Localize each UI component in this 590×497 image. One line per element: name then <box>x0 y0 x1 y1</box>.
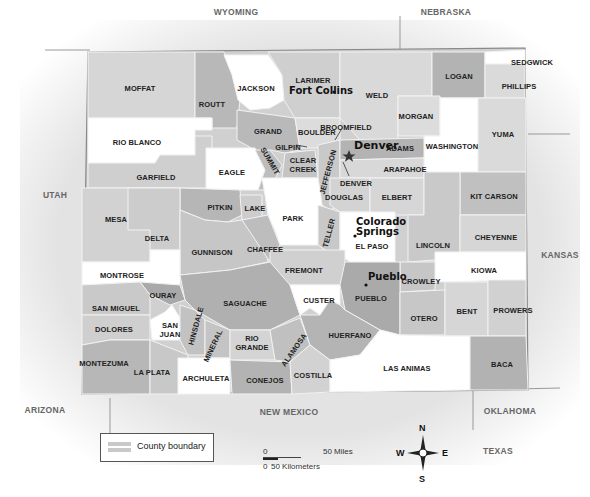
county-label-phillips: PHILLIPS <box>502 82 537 91</box>
county-label-custer: CUSTER <box>303 296 334 305</box>
county-label-rio-grande: RIO GRANDE <box>235 334 269 352</box>
county-label-otero: OTERO <box>410 314 437 323</box>
county-label-pueblo: PUEBLO <box>355 294 387 303</box>
city-label-pueblo: Pueblo <box>368 272 407 282</box>
state-label-kansas: KANSAS <box>541 250 579 260</box>
county-label-broomfield: BROOMFIELD <box>320 123 371 132</box>
county-label-denver: DENVER <box>340 179 372 188</box>
county-label-park: PARK <box>282 214 303 223</box>
state-label-arizona: ARIZONA <box>25 405 66 415</box>
county-label-montrose: MONTROSE <box>100 271 144 280</box>
county-label-yuma: YUMA <box>492 130 514 139</box>
scale-bar-km-segment <box>263 458 278 460</box>
county-label-san-miguel: SAN MIGUEL <box>92 304 140 313</box>
county-label-saguache: SAGUACHE <box>223 299 267 308</box>
state-label-utah: UTAH <box>43 190 67 200</box>
compass-east: E <box>442 448 448 458</box>
scale-miles-label: 50 Miles <box>323 447 353 456</box>
county-label-san-juan: SAN JUAN <box>153 321 187 339</box>
county-label-la-plata: LA PLATA <box>134 368 171 377</box>
compass-south: S <box>419 474 425 484</box>
county-label-larimer: LARIMER <box>296 76 331 85</box>
county-label-washington: WASHINGTON <box>426 142 479 151</box>
county-label-weld: WELD <box>366 91 388 100</box>
compass-west: W <box>396 448 405 458</box>
city-label-colorado-springs: Colorado Springs <box>356 217 416 237</box>
scale-km-zero: 0 <box>263 462 267 471</box>
compass-rose: N S E W <box>393 423 453 488</box>
state-label-new-mexico: NEW MEXICO <box>260 407 319 417</box>
county-otero <box>400 290 445 335</box>
county-label-prowers: PROWERS <box>493 306 532 315</box>
county-label-lake: LAKE <box>245 204 266 213</box>
county-label-chaffee: CHAFFEE <box>247 245 283 254</box>
state-label-nebraska: NEBRASKA <box>421 7 472 17</box>
county-label-logan: LOGAN <box>445 72 473 81</box>
scale-bar-miles-segment <box>263 457 301 458</box>
county-label-mesa: MESA <box>105 215 127 224</box>
county-label-archuleta: ARCHULETA <box>182 374 229 383</box>
county-label-grand: GRAND <box>254 127 282 136</box>
county-label-jackson: JACKSON <box>237 84 274 93</box>
county-label-kit-carson: KIT CARSON <box>470 192 518 201</box>
county-label-routt: ROUTT <box>199 100 225 109</box>
compass-north: N <box>419 423 426 433</box>
map-legend: County boundary <box>100 433 214 462</box>
county-label-huerfano: HUERFANO <box>329 331 372 340</box>
county-label-arapahoe: ARAPAHOE <box>383 165 426 174</box>
county-label-sedgwick: SEDGWICK <box>511 58 553 67</box>
county-label-las-animas: LAS ANIMAS <box>383 364 430 373</box>
county-label-moffat: MOFFAT <box>125 84 156 93</box>
county-label-montezuma: MONTEZUMA <box>79 359 129 368</box>
state-label-texas: TEXAS <box>483 446 513 456</box>
scale-bar: 0 50 Miles 0 50 Kilometers <box>263 447 383 477</box>
city-label-fort-collins: Fort Collins <box>289 86 353 96</box>
county-label-clear-creek: CLEAR CREEK <box>286 156 320 174</box>
state-label-wyoming: WYOMING <box>214 7 259 17</box>
county-label-rio-blanco: RIO BLANCO <box>113 138 162 147</box>
county-label-el-paso: EL PASO <box>356 242 389 251</box>
county-boundary-swatch <box>108 442 131 452</box>
county-label-bent: BENT <box>457 307 478 316</box>
county-label-fremont: FREMONT <box>285 266 323 275</box>
county-label-costilla: COSTILLA <box>294 371 332 380</box>
county-label-lincoln: LINCOLN <box>416 241 450 250</box>
colorado-county-map: WYOMINGNEBRASKAUTAHKANSASARIZONANEW MEXI… <box>0 0 590 497</box>
legend-label: County boundary <box>137 441 206 451</box>
county-label-elbert: ELBERT <box>382 193 413 202</box>
county-label-gunnison: GUNNISON <box>191 248 232 257</box>
city-label-denver: Denver <box>354 141 398 151</box>
county-label-eagle: EAGLE <box>219 168 245 177</box>
county-label-conejos: CONEJOS <box>246 376 283 385</box>
county-label-baca: BACA <box>491 360 513 369</box>
county-label-dolores: DOLORES <box>95 325 133 334</box>
state-label-oklahoma: OKLAHOMA <box>484 406 536 416</box>
county-label-gilpin: GILPIN <box>275 143 301 152</box>
county-label-kiowa: KIOWA <box>471 266 497 275</box>
county-label-douglas: DOUGLAS <box>325 193 363 202</box>
county-label-ouray: OURAY <box>150 291 177 300</box>
county-label-garfield: GARFIELD <box>136 173 175 182</box>
city-dot-pueblo <box>364 283 367 286</box>
scale-miles-zero: 0 <box>263 447 267 456</box>
county-label-crowley: CROWLEY <box>401 277 440 286</box>
county-label-morgan: MORGAN <box>399 112 434 121</box>
county-label-pitkin: PITKIN <box>207 203 232 212</box>
scale-km-label: 50 Kilometers <box>271 462 320 471</box>
county-label-delta: DELTA <box>145 234 169 243</box>
county-label-cheyenne: CHEYENNE <box>475 233 517 242</box>
